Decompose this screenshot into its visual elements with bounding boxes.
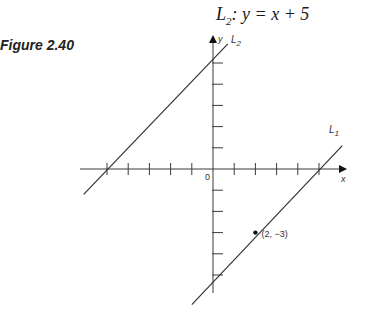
- point-marker: [253, 230, 257, 234]
- y-axis-label: y: [217, 34, 223, 44]
- x-axis-arrow-icon: [339, 165, 347, 173]
- line-label-l2: L2: [231, 34, 242, 48]
- point-label: (2, −3): [261, 229, 287, 239]
- x-axis-label: x: [340, 174, 346, 184]
- y-axis-arrow-icon: [209, 35, 217, 43]
- line-l1: [192, 146, 343, 305]
- origin-label: 0: [205, 172, 210, 182]
- line-label-l1: L1: [329, 124, 339, 138]
- coordinate-plot: xy0L2L1(2, −3): [0, 0, 366, 317]
